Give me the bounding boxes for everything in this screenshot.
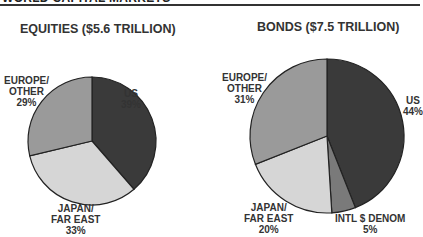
eq-label-japan: JAPAN/ FAR EAST 33% — [51, 203, 100, 236]
label-line: OTHER — [4, 86, 49, 97]
label-line: INTL $ DENOM — [335, 213, 405, 224]
label-line: EUROPE/ — [222, 72, 267, 83]
label-line: 29% — [4, 97, 49, 108]
label-line: 33% — [51, 225, 100, 236]
label-line: 31% — [222, 94, 267, 105]
label-line: 5% — [335, 224, 405, 235]
label-line: FAR EAST — [244, 213, 293, 224]
eq-label-us: US 39% — [121, 88, 141, 110]
label-line: EUROPE/ — [4, 75, 49, 86]
label-line: FAR EAST — [51, 214, 100, 225]
label-line: 39% — [121, 99, 141, 110]
bd-label-intl: INTL $ DENOM 5% — [335, 213, 405, 235]
eq-label-europe: EUROPE/ OTHER 29% — [4, 75, 49, 108]
bd-label-europe: EUROPE/ OTHER 31% — [222, 72, 267, 105]
label-line: US — [403, 95, 423, 106]
label-line: OTHER — [222, 83, 267, 94]
label-line: 44% — [403, 106, 423, 117]
bd-label-japan: JAPAN/ FAR EAST 20% — [244, 202, 293, 235]
label-line: JAPAN/ — [244, 202, 293, 213]
bd-label-us: US 44% — [403, 95, 423, 117]
label-line: US — [121, 88, 141, 99]
bonds-pie — [250, 59, 404, 213]
label-line: 20% — [244, 224, 293, 235]
label-line: JAPAN/ — [51, 203, 100, 214]
